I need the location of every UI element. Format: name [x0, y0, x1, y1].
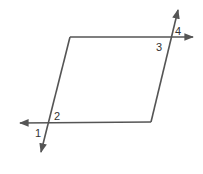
left-side-ray [41, 37, 70, 152]
right-side-ray [151, 10, 178, 122]
angle-label-3: 3 [156, 41, 162, 53]
angle-label-4: 4 [175, 25, 181, 37]
angle-label-2: 2 [54, 110, 60, 122]
parallelogram-diagram: 1 2 3 4 [0, 0, 203, 174]
angle-label-1: 1 [35, 127, 41, 139]
bottom-side-ray [20, 122, 151, 123]
